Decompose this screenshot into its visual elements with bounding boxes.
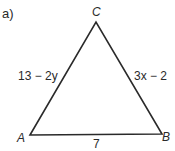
side-label-ab: 7 — [93, 138, 100, 150]
side-label-ac: 13 − 2y — [18, 70, 58, 82]
vertex-label-b: B — [162, 131, 170, 143]
vertex-label-a: A — [17, 132, 25, 144]
side-label-cb: 3x − 2 — [134, 70, 167, 82]
problem-label: a) — [2, 8, 14, 20]
vertex-label-c: C — [92, 6, 101, 18]
